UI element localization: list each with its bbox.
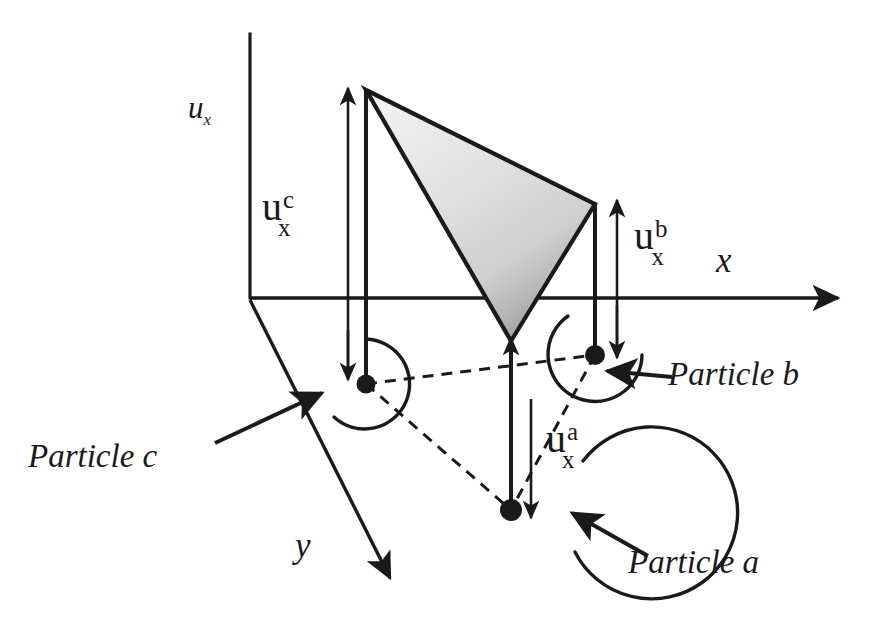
particle-b-label: Particle b <box>668 358 799 391</box>
particle-a-dot <box>500 499 522 521</box>
particle-c-label: Particle c <box>28 440 157 473</box>
y-axis-line <box>250 300 390 578</box>
vector-uxb-sub: x <box>652 243 665 270</box>
particle-a-label: Particle a <box>628 546 759 579</box>
ux-axis-label-sub: x <box>204 110 212 129</box>
figure-canvas <box>0 0 870 631</box>
y-axis-label: y <box>295 528 311 563</box>
ux-axis-label-main: u <box>188 90 204 125</box>
axis-group <box>250 34 838 578</box>
connector-c-to-a <box>366 384 511 510</box>
leader-arrows <box>215 371 672 556</box>
leader-arrow-particle-c <box>215 393 322 443</box>
vector-uxc-sup: c <box>283 186 294 213</box>
vector-label-uxa: uax <box>546 417 590 465</box>
ux-axis-label: ux <box>188 92 211 128</box>
vector-label-uxc: ucx <box>262 185 306 233</box>
vector-uxb-sup: b <box>655 215 668 242</box>
shaded-triangle <box>366 90 595 341</box>
vector-label-uxb: ubx <box>634 214 679 262</box>
vector-uxa-sup: a <box>567 418 578 445</box>
figure-root: ux x y ucx ubx uax Particle c Particle b… <box>0 0 870 631</box>
vector-uxb-main: u <box>634 213 654 258</box>
vector-uxc-sub: x <box>278 214 291 241</box>
particle-b-dot <box>585 345 605 365</box>
particle-c-dot <box>357 375 376 394</box>
x-axis-label: x <box>716 243 732 278</box>
vector-uxa-sub: x <box>562 446 575 473</box>
